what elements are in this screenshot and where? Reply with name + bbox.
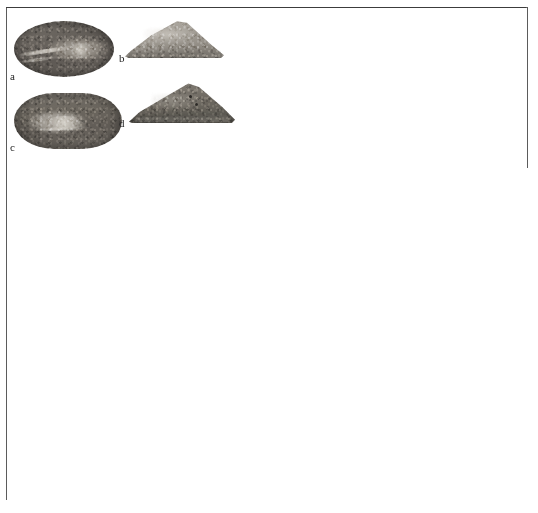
specimen-photo-b — [125, 18, 225, 58]
bivalve-valve-rounded-rect-photo — [13, 92, 123, 150]
specimen-b-sheen — [143, 28, 199, 44]
bivalve-valve-oval-photo — [13, 20, 115, 78]
specimen-d-boring-hole-lower — [195, 103, 198, 106]
figure-label-a: a — [10, 71, 15, 82]
bivalve-valve-triangular-dark-photo — [129, 81, 235, 123]
specimen-a-umbo — [70, 43, 92, 58]
blank-plate-area — [7, 168, 529, 501]
bivalve-valve-triangular-photo — [125, 18, 225, 58]
figure-label-b: b — [119, 53, 125, 64]
specimen-photo-c — [13, 92, 123, 150]
figure-plate: a b c d — [0, 0, 538, 513]
specimen-photo-a — [13, 20, 115, 78]
plate-frame-border: a b c d — [6, 7, 528, 500]
specimen-photo-d — [129, 81, 235, 123]
figure-label-d: d — [119, 118, 125, 129]
figure-image-area: a b c d — [7, 8, 529, 501]
figure-label-c: c — [10, 142, 15, 153]
